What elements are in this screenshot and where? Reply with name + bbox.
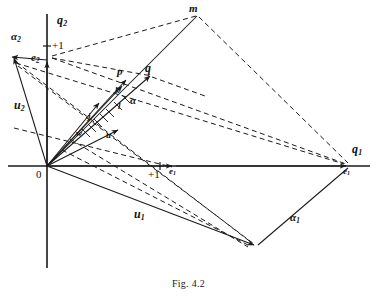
vector-label-j: j [88, 112, 91, 121]
vector-label-alpha1: α1 [290, 212, 300, 225]
axis-label-q2: q2 [57, 14, 67, 28]
seg-origin-to-k [47, 86, 122, 166]
origin-label: 0 [36, 169, 42, 180]
point-label-q: q [145, 62, 151, 74]
dash-e2-to-q [52, 58, 152, 76]
vector-label-alpha: α [130, 95, 136, 106]
dash-m-to-e1far [199, 17, 348, 163]
point-label-e2: e2 [31, 52, 40, 65]
vector-label-k: k [115, 86, 120, 95]
dash-e2-to-m [52, 16, 196, 56]
hatch-mark-5 [82, 129, 90, 137]
point-label-alpha2: α2 [11, 31, 21, 44]
seg-origin-to-alpha2 [12, 57, 47, 60]
dash-w-to-bottom [70, 139, 248, 247]
vector-label-l: l [118, 102, 121, 111]
unit-mark-vertical-label: +1 [52, 40, 64, 51]
dash-q-right [152, 77, 205, 96]
figure-container: q2 q1 0 +1 +1 e2 e1 e1 m p q α2 u2 u1 α1… [0, 0, 377, 302]
dash-alpha2-to-e1far [16, 63, 344, 164]
point-label-p: p [117, 66, 123, 77]
hatch-mark-6 [88, 124, 96, 132]
vector-label-u1: u1 [134, 208, 145, 222]
hatch-mark-0 [94, 119, 102, 127]
figure-caption: Fig. 4.2 [0, 278, 377, 289]
seg-origin-to-j [47, 103, 99, 166]
point-label-e1: e1 [169, 167, 176, 177]
vector-label-u2: u2 [14, 99, 25, 113]
unit-mark-horizontal-label: +1 [148, 169, 160, 180]
point-label-e1-far: e1 [343, 167, 350, 177]
axes-group [8, 14, 370, 268]
seg-e1far-to-bottom-vertex [258, 168, 348, 245]
vector-label-u-small: u [106, 131, 111, 140]
dash-e2-to-e1far [52, 58, 346, 164]
seg-m-to-origin [47, 16, 197, 166]
axis-label-q1: q1 [352, 143, 362, 157]
point-label-m: m [189, 3, 198, 14]
vector-label-w: w [76, 129, 82, 138]
dash-origin-diag-low [62, 150, 250, 246]
